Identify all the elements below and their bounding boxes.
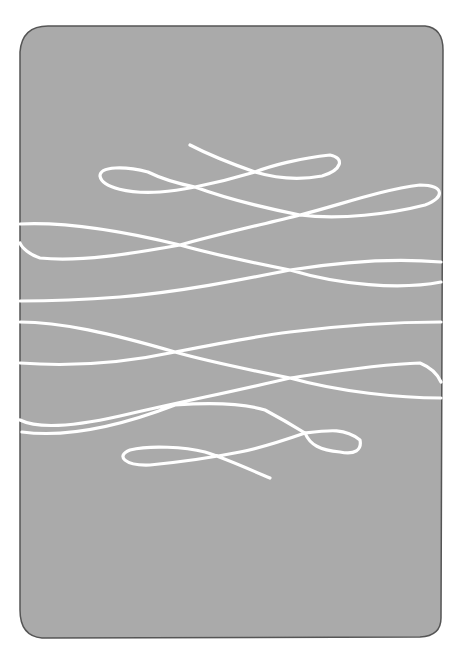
line-illustration bbox=[0, 0, 467, 671]
gray-panel bbox=[20, 26, 443, 638]
